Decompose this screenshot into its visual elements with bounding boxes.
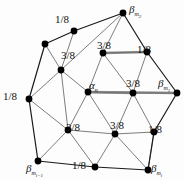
lbl-beta-mi-1: βmi−1	[26, 163, 43, 178]
mesh-edge-inner	[29, 99, 68, 130]
mesh-vertex	[130, 90, 137, 97]
mesh-edge-inner	[115, 134, 148, 170]
mesh-vertex	[71, 28, 78, 35]
mesh-edge-outer	[95, 167, 148, 170]
weight-label: 3/8	[126, 78, 140, 89]
subdivision-stencil-diagram: 1/83/83/81/81/83/83/83/81/81/8 αnβm2βm1β…	[0, 0, 184, 179]
weight-label: 1/8	[72, 160, 86, 171]
weight-label: 3/8	[66, 122, 80, 133]
mesh-vertex	[42, 41, 49, 48]
mesh-edge-inner	[95, 134, 115, 167]
weight-label: 1/8	[137, 44, 151, 55]
mesh-edge-outer	[45, 31, 74, 44]
weight-label: 3/8	[61, 50, 75, 61]
lbl-beta-m2: βm2	[129, 4, 141, 19]
lbl-beta-mi: βmi	[151, 163, 162, 178]
mesh-vertex	[174, 90, 181, 97]
mesh-vertex	[26, 96, 33, 103]
mesh-vertex	[120, 10, 127, 17]
mesh-edge-outer	[29, 44, 45, 99]
mesh-vertex	[112, 131, 119, 138]
mesh-vertex	[92, 164, 99, 171]
weight-label: 1/8	[55, 14, 69, 25]
mesh-edge-outer	[38, 161, 95, 167]
mesh-edge-inner	[61, 70, 88, 92]
mesh-edge-inner	[38, 130, 68, 161]
mesh-edge-outer	[29, 99, 38, 161]
weight-label: 1/8	[3, 91, 17, 102]
mesh-edge-inner	[45, 44, 61, 70]
weight-label: 3/8	[110, 120, 124, 131]
mesh-vertex	[58, 67, 65, 74]
lbl-alpha-n: αn	[89, 80, 98, 93]
weight-label: 1/8	[148, 124, 162, 135]
lbl-beta-m1: βm1	[158, 78, 170, 93]
weight-label: 3/8	[97, 40, 111, 51]
